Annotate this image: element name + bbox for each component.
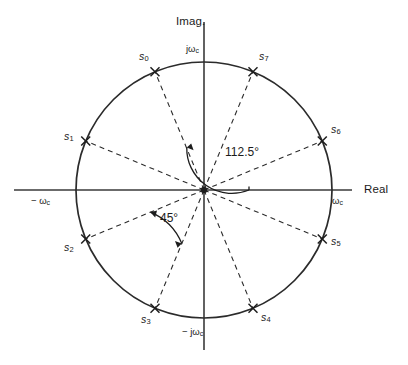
pole-marker-s5 <box>318 235 327 244</box>
real-negative-tick-sub: c <box>47 199 51 206</box>
pole-label-s4: s4 <box>261 312 271 324</box>
pole-label-s1-sub: 1 <box>69 134 73 143</box>
angle-label-45: 45° <box>160 212 178 224</box>
real-negative-tick: − ωc <box>31 196 50 206</box>
imag-positive-tick-text: jω <box>186 43 196 54</box>
pole-label-s7: s7 <box>259 51 269 63</box>
pole-marker-s2 <box>81 235 90 244</box>
pole-label-s2: s2 <box>64 242 74 254</box>
pole-marker-s0 <box>151 67 160 76</box>
real-negative-tick-text: − ω <box>31 195 47 206</box>
imag-positive-tick-sub: c <box>196 47 200 54</box>
pole-label-s3-sub: 3 <box>146 317 150 326</box>
pole-label-s0-sub: 0 <box>144 54 148 63</box>
imag-negative-tick-sub: c <box>200 330 204 337</box>
imag-axis-label: Imag. <box>176 16 205 28</box>
pole-label-s1: s1 <box>64 131 74 143</box>
pole-label-s3: s3 <box>141 314 151 326</box>
real-axis-label: Real <box>364 184 388 196</box>
imag-negative-tick-text: − jω <box>182 326 200 337</box>
pole-marker-s7 <box>249 67 258 76</box>
imag-negative-tick: − jωc <box>182 327 203 337</box>
pole-label-s5-sub: 5 <box>336 239 340 248</box>
pole-label-s6: s6 <box>331 124 341 136</box>
real-positive-tick-sub: c <box>339 199 343 206</box>
pole-marker-s6 <box>318 137 327 146</box>
plot-canvas <box>0 0 408 365</box>
pole-label-s7-sub: 7 <box>264 54 268 63</box>
angle-label-112: 112.5° <box>225 146 259 158</box>
imag-positive-tick: jωc <box>186 44 199 54</box>
pole-label-s5: s5 <box>331 236 341 248</box>
pole-marker-s3 <box>151 304 160 313</box>
pole-marker-s1 <box>81 137 90 146</box>
pole-marker-s4 <box>249 304 258 313</box>
pole-label-s0: s0 <box>139 51 149 63</box>
pole-label-s2-sub: 2 <box>69 245 73 254</box>
real-positive-tick: ωc <box>332 196 343 206</box>
origin-point <box>201 187 207 193</box>
pole-label-s6-sub: 6 <box>336 127 340 136</box>
pole-zero-diagram: Imag. Real jωc − jωc ωc − ωc s0 s1 s2 s3… <box>0 0 408 365</box>
pole-label-s4-sub: 4 <box>266 315 270 324</box>
